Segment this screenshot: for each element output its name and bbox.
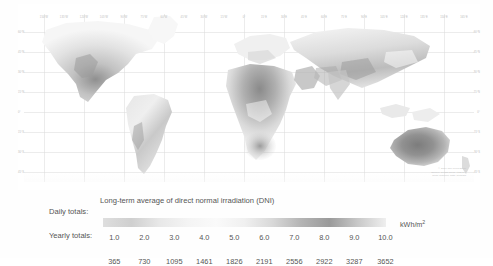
legend-title: Long-term average of direct normal irrad… <box>100 196 274 205</box>
colorbar-daily-tick: 5.0 <box>229 233 239 242</box>
lon-tick: 165°E <box>460 16 468 19</box>
landmass-greenland <box>142 14 182 48</box>
lon-tick: 30°E <box>281 16 287 19</box>
colorbar-daily-tick: 3.0 <box>169 233 179 242</box>
attribution-line-3: Solar resource data: Solargis <box>431 174 466 178</box>
lon-tick: 0° <box>243 16 246 19</box>
lat-tick-left: 30°N <box>18 71 24 74</box>
lon-tick: 60°W <box>161 16 168 19</box>
polar-fade <box>24 172 474 182</box>
lon-tick: 90°W <box>121 16 128 19</box>
lon-tick: 120°E <box>400 16 408 19</box>
lon-tick: 60°E <box>321 16 327 19</box>
colorbar-gradient <box>103 218 386 227</box>
colorbar-yearly-tick: 2922 <box>316 257 332 266</box>
lat-tick-left: 0° <box>18 111 21 114</box>
lon-tick: 120°W <box>80 16 88 19</box>
landmass-arabia-india <box>292 62 364 110</box>
colorbar-daily-tick: 6.0 <box>259 233 269 242</box>
colorbar-yearly-tick: 1826 <box>226 257 242 266</box>
colorbar-daily-tick: 4.0 <box>199 233 209 242</box>
colorbar-daily-tick: 1.0 <box>109 233 119 242</box>
colorbar-yearly-tick: 730 <box>138 257 150 266</box>
lat-tick-right: 30°N <box>474 71 480 74</box>
colorbar-yearly-tick: 3652 <box>377 257 393 266</box>
lon-tick: 150°E <box>440 16 448 19</box>
lon-tick: 135°E <box>420 16 428 19</box>
map-frame: 150°W 135°W 120°W 105°W 90°W 75°W 60°W 4… <box>18 4 480 190</box>
landmass-south-america <box>120 92 184 178</box>
lon-tick: 45°W <box>181 16 188 19</box>
daily-totals-label: Daily totals: <box>49 207 88 216</box>
colorbar-yearly-tick: 1461 <box>196 257 212 266</box>
map-panel: 150°W 135°W 120°W 105°W 90°W 75°W 60°W 4… <box>18 4 480 190</box>
lat-tick-left: 30°S <box>18 151 24 154</box>
colorbar-daily-tick: 7.0 <box>289 233 299 242</box>
lat-tick-left: 45°S <box>18 171 24 174</box>
legend: Long-term average of direct normal irrad… <box>0 192 493 258</box>
colorbar-daily-tick: 2.0 <box>139 233 149 242</box>
lon-tick: 75°E <box>341 16 347 19</box>
colorbar-daily-tick: 8.0 <box>319 233 329 242</box>
colorbar-yearly-tick: 2556 <box>286 257 302 266</box>
lon-tick: 75°W <box>141 16 148 19</box>
lon-tick: 45°E <box>301 16 307 19</box>
lat-tick-right: 15°S <box>474 131 480 134</box>
colorbar-yearly-tick: 365 <box>108 257 120 266</box>
lon-tick: 15°E <box>261 16 267 19</box>
colorbar-yearly-tick: 1095 <box>166 257 182 266</box>
lat-tick-right: 0° <box>477 111 480 114</box>
lat-tick-left: 60°N <box>18 31 24 34</box>
colorbar-yearly-tick: 2191 <box>256 257 272 266</box>
lon-tick: 15°W <box>221 16 228 19</box>
lon-tick: 105°W <box>100 16 108 19</box>
unit-label: kWh/m2 <box>400 219 425 229</box>
lon-tick: 90°E <box>361 16 367 19</box>
lat-tick-left: 15°S <box>18 131 24 134</box>
lon-tick: 30°W <box>201 16 208 19</box>
colorbar-daily-tick: 10.0 <box>378 233 392 242</box>
graticule-line <box>204 14 205 182</box>
lat-tick-right: 45°S <box>474 171 480 174</box>
lat-tick-right: 30°S <box>474 151 480 154</box>
colorbar-yearly-tick: 3287 <box>346 257 362 266</box>
lon-tick: 150°W <box>40 16 48 19</box>
lon-tick: 105°E <box>380 16 388 19</box>
map-attribution: © 2017 The World Bank Source: Global Sol… <box>431 167 466 178</box>
map-plot-area: 150°W 135°W 120°W 105°W 90°W 75°W 60°W 4… <box>24 14 474 182</box>
lat-tick-right: 45°N <box>474 51 480 54</box>
colorbar: 1.0 2.0 3.0 4.0 5.0 6.0 7.0 8.0 9.0 10.0… <box>103 218 386 227</box>
yearly-totals-label: Yearly totals: <box>49 231 92 240</box>
colorbar-daily-tick: 9.0 <box>349 233 359 242</box>
lat-tick-left: 45°N <box>18 51 24 54</box>
landmass-europe <box>228 30 294 70</box>
lat-tick-right: 60°N <box>474 31 480 34</box>
lon-tick: 135°W <box>60 16 68 19</box>
unit-text: kWh/m <box>400 220 422 229</box>
unit-exponent: 2 <box>422 219 425 225</box>
lat-tick-left: 15°N <box>18 91 24 94</box>
lat-tick-right: 15°N <box>474 91 480 94</box>
